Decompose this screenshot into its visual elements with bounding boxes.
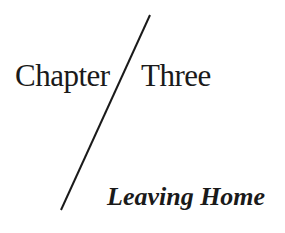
chapter-subtitle: Leaving Home: [107, 184, 265, 210]
chapter-number: Three: [141, 60, 211, 91]
chapter-label: Chapter: [15, 60, 110, 91]
